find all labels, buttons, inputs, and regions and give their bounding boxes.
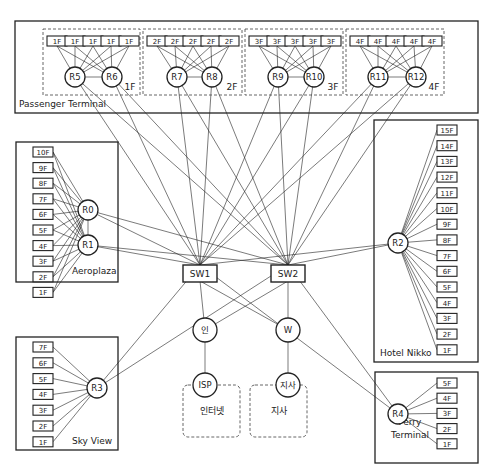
floor-label: 8F xyxy=(443,237,451,245)
floor-label: 3F xyxy=(443,315,451,323)
floor-label: 7F xyxy=(39,196,47,204)
floor-label: 2F xyxy=(153,38,161,46)
floor-label: 3F xyxy=(39,407,47,415)
floor-label: 1F xyxy=(53,38,61,46)
connection-line xyxy=(53,152,88,245)
floor-label: 10F xyxy=(441,206,454,214)
building-label: Aeroplaza xyxy=(72,266,117,276)
node-label: 인 xyxy=(201,325,209,335)
connection-line xyxy=(288,243,398,265)
floor-label: 1F xyxy=(71,38,79,46)
connection-line xyxy=(288,77,314,265)
connection-line xyxy=(398,243,437,350)
floor-label: 1F xyxy=(39,439,47,447)
floor-label: 2F xyxy=(207,38,215,46)
floor-label: 11F xyxy=(441,190,454,198)
floor-label: 4F xyxy=(374,38,382,46)
router-label: R5 xyxy=(69,72,80,82)
floor-label: 4F xyxy=(410,38,418,46)
connection-line xyxy=(97,265,200,388)
router-label: R1 xyxy=(82,240,93,250)
connection-line xyxy=(212,77,288,265)
connection-line xyxy=(288,77,378,265)
floor-label: 4F xyxy=(39,243,47,251)
building-label: Terminal xyxy=(390,430,429,440)
floor-label: 10F xyxy=(37,149,50,157)
floor-label: 3F xyxy=(291,38,299,46)
floor-group-label: 3F xyxy=(328,82,339,92)
floor-label: 1F xyxy=(443,441,451,449)
floor-label: 2F xyxy=(443,426,451,434)
floor-label: 3F xyxy=(39,258,47,266)
floor-label: 7F xyxy=(39,344,47,352)
building-aeroplaza xyxy=(16,142,118,282)
building-label: Passenger Terminal xyxy=(19,99,106,109)
cloud-label: 지사 xyxy=(271,406,288,416)
floor-group-label: 4F xyxy=(429,82,440,92)
network-topology-diagram: Passenger TerminalAeroplazaHotel NikkoSk… xyxy=(0,0,497,466)
connection-line xyxy=(112,77,200,265)
building-label: Sky View xyxy=(72,436,112,446)
floor-label: 3F xyxy=(443,410,451,418)
connection-lines xyxy=(53,46,437,444)
connection-line xyxy=(200,243,398,265)
connection-line xyxy=(200,77,378,265)
floor-label: 3F xyxy=(273,38,281,46)
router-label: R6 xyxy=(106,72,117,82)
connection-line xyxy=(398,161,437,243)
floor-label: 1F xyxy=(443,347,451,355)
floor-label: 9F xyxy=(39,165,47,173)
connection-line xyxy=(97,265,288,388)
node-label: ISP xyxy=(198,380,211,390)
floor-label: 2F xyxy=(171,38,179,46)
floor-label: 5F xyxy=(39,227,47,235)
router-label: R12 xyxy=(408,72,425,82)
floor-label: 2F xyxy=(443,331,451,339)
floor-label: 1F xyxy=(125,38,133,46)
floor-label: 5F xyxy=(443,284,451,292)
floor-label: 4F xyxy=(443,395,451,403)
floor-label: 7F xyxy=(443,253,451,261)
connection-line xyxy=(200,265,398,414)
switch-label: SW2 xyxy=(278,269,298,279)
floor-label: 3F xyxy=(255,38,263,46)
floor-label: 4F xyxy=(443,300,451,308)
router-label: R4 xyxy=(392,409,403,419)
floor-label: 13F xyxy=(441,158,454,166)
connection-line xyxy=(200,77,314,265)
connection-line xyxy=(200,77,278,265)
floor-label: 2F xyxy=(189,38,197,46)
router-label: R10 xyxy=(306,72,323,82)
floor-label: 1F xyxy=(39,289,47,297)
floor-label: 3F xyxy=(327,38,335,46)
connection-line xyxy=(398,243,437,334)
floor-label: 6F xyxy=(39,211,47,219)
router-label: R11 xyxy=(370,72,387,82)
floor-label: 14F xyxy=(441,143,454,151)
floor-label: 1F xyxy=(107,38,115,46)
building-label: Hotel Nikko xyxy=(380,348,432,358)
connection-line xyxy=(88,210,200,265)
connection-line xyxy=(200,77,212,265)
connection-line xyxy=(278,77,288,265)
floor-label: 12F xyxy=(441,174,454,182)
connection-line xyxy=(88,245,200,265)
node-label: 지사 xyxy=(280,380,296,390)
connection-line xyxy=(205,281,288,330)
connection-line xyxy=(177,77,200,265)
switch-label: SW1 xyxy=(190,269,210,279)
connection-line xyxy=(112,77,288,265)
floor-label: 15F xyxy=(441,127,454,135)
router-label: R3 xyxy=(91,383,102,393)
router-label: R2 xyxy=(392,238,403,248)
floor-label: 2F xyxy=(39,274,47,282)
floor-label: 4F xyxy=(428,38,436,46)
connection-line xyxy=(398,146,437,243)
connection-line xyxy=(398,243,437,303)
floor-label: 2F xyxy=(39,423,47,431)
floor-label: 9F xyxy=(443,221,451,229)
floor-label: 4F xyxy=(392,38,400,46)
floor-label: 2F xyxy=(225,38,233,46)
floor-label: 3F xyxy=(309,38,317,46)
floor-group-label: 2F xyxy=(227,82,238,92)
